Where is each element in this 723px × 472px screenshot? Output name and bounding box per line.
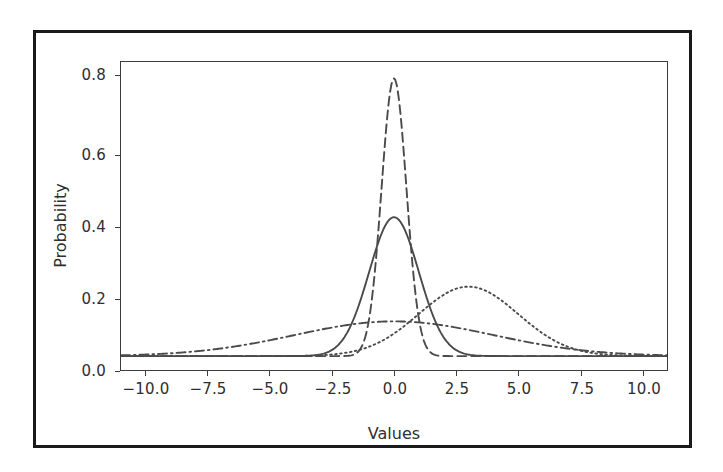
ytick-label-1: 0.2 <box>36 290 106 308</box>
ytick-label-3: 0.6 <box>36 146 106 164</box>
xtick-mark-3 <box>332 371 333 376</box>
curve-layer <box>121 78 667 356</box>
xtick-mark-6 <box>518 371 519 376</box>
curve-solid <box>121 217 667 356</box>
xtick-mark-0 <box>145 371 146 376</box>
xtick-label-1: −7.5 <box>189 380 226 398</box>
xtick-label-0: −10.0 <box>123 380 170 398</box>
xtick-mark-8 <box>643 371 644 376</box>
xtick-mark-7 <box>581 371 582 376</box>
y-axis-label: Probability <box>51 136 70 316</box>
xtick-label-5: 2.5 <box>445 380 469 398</box>
curves-svg <box>121 62 667 370</box>
ytick-label-4: 0.8 <box>36 66 106 84</box>
x-axis-label: Values <box>120 424 668 443</box>
xtick-mark-5 <box>456 371 457 376</box>
curve-dotted <box>121 287 667 356</box>
xtick-mark-1 <box>207 371 208 376</box>
xtick-label-7: 7.5 <box>570 380 594 398</box>
figure-border: 0.0 0.2 0.4 0.6 0.8 −10.0 −7.5 −5.0 <box>33 30 692 448</box>
page-canvas: 0.0 0.2 0.4 0.6 0.8 −10.0 −7.5 −5.0 <box>0 0 723 472</box>
ytick-label-2: 0.4 <box>36 218 106 236</box>
xtick-mark-4 <box>394 371 395 376</box>
matplotlib-figure: 0.0 0.2 0.4 0.6 0.8 −10.0 −7.5 −5.0 <box>36 33 689 445</box>
xtick-label-2: −5.0 <box>251 380 288 398</box>
xtick-mark-2 <box>269 371 270 376</box>
plot-area <box>120 61 668 371</box>
ytick-label-0: 0.0 <box>36 362 106 380</box>
xtick-label-3: −2.5 <box>314 380 351 398</box>
xtick-label-4: 0.0 <box>383 380 407 398</box>
curve-dashdot <box>121 321 667 355</box>
xtick-label-6: 5.0 <box>507 380 531 398</box>
ytick-mark-0 <box>115 371 120 372</box>
xtick-label-8: 10.0 <box>627 380 661 398</box>
